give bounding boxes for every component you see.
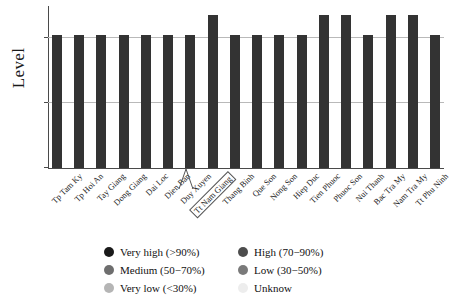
legend-label: Medium (50−70%) [120, 264, 205, 276]
bar [141, 35, 151, 168]
bar [430, 35, 440, 168]
legend-swatch-icon [104, 283, 114, 293]
plot-area [48, 6, 444, 169]
legend-item: Low (30−50%) [238, 264, 366, 276]
bar [386, 15, 396, 168]
bar-series [48, 6, 444, 168]
legend-label: Very high (>90%) [120, 246, 200, 258]
legend-label: High (70−90%) [254, 246, 323, 258]
legend-item: Very high (>90%) [104, 246, 232, 258]
legend: Very high (>90%)High (70−90%)Medium (50−… [104, 243, 366, 299]
bar [274, 35, 284, 168]
bar [252, 35, 262, 168]
bar [408, 15, 418, 168]
x-axis-labels: Tp Tam KyTp Hoi AnTay GiangDong GiangDai… [48, 171, 444, 233]
bar [363, 35, 373, 168]
legend-swatch-icon [104, 265, 114, 275]
bar [185, 35, 195, 168]
x-axis-line [48, 168, 444, 169]
legend-swatch-icon [104, 247, 114, 257]
legend-label: Very low (<30%) [120, 282, 196, 294]
legend-label: Unknow [254, 282, 292, 294]
legend-item: Unknow [238, 282, 366, 294]
legend-swatch-icon [238, 265, 248, 275]
legend-swatch-icon [238, 283, 248, 293]
bar [96, 35, 106, 168]
bar [74, 35, 84, 168]
bar [52, 35, 62, 168]
legend-swatch-icon [238, 247, 248, 257]
bar [163, 35, 173, 168]
legend-item: Very low (<30%) [104, 282, 232, 294]
legend-item: High (70−90%) [238, 246, 366, 258]
legend-item: Medium (50−70%) [104, 264, 232, 276]
legend-label: Low (30−50%) [254, 264, 322, 276]
bar [319, 15, 329, 168]
bar [297, 35, 307, 168]
y-axis-title-text: Level [9, 48, 29, 89]
bar [208, 15, 218, 168]
y-axis-title: Level [6, 8, 32, 128]
bar [119, 35, 129, 168]
bar [341, 15, 351, 168]
bar [230, 35, 240, 168]
